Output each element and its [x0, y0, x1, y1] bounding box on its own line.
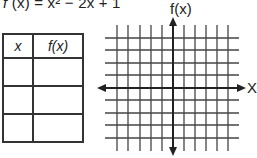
y-axis-up-arrow-icon	[169, 17, 177, 26]
coordinate-grid[interactable]	[0, 0, 257, 158]
axes	[102, 22, 242, 151]
x-axis-label: X	[247, 79, 257, 96]
x-axis-right-arrow-icon	[237, 84, 246, 92]
y-axis-down-arrow-icon	[169, 147, 177, 156]
x-axis-left-arrow-icon	[97, 84, 106, 92]
y-axis-label: f(x)	[170, 0, 192, 17]
